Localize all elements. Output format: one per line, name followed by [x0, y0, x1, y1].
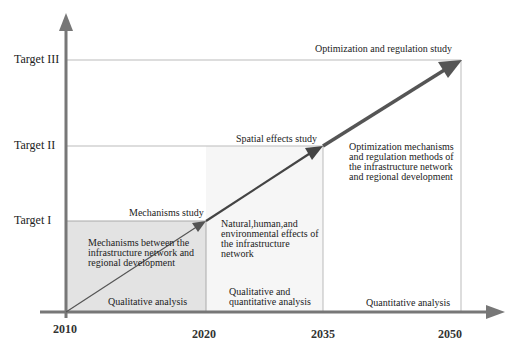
study-label-optimization: Optimization and regulation study [315, 43, 452, 54]
content-line: and regional development [349, 172, 454, 182]
method-line: quantitative analysis [229, 297, 311, 307]
x-label-2050: 2050 [438, 327, 462, 342]
y-label-target1: Target I [14, 213, 51, 228]
content-line: regional development [88, 258, 194, 268]
method-stage1: Qualitative analysis [108, 297, 187, 307]
stage3-arrow [323, 69, 446, 146]
method-stage3: Quantitative analysis [366, 298, 450, 308]
x-label-2020: 2020 [192, 327, 216, 342]
y-label-target2: Target II [14, 138, 55, 153]
study-label-spatial: Spatial effects study [236, 133, 317, 144]
y-axis-arrowhead-icon [59, 13, 73, 31]
y-label-target3: Target III [14, 52, 59, 67]
x-label-2035: 2035 [311, 327, 335, 342]
content-line: network [221, 249, 319, 259]
study-label-mechanisms: Mechanisms study [129, 207, 204, 218]
method-stage2: Qualitative and quantitative analysis [229, 287, 311, 307]
x-axis-arrowhead-icon [486, 305, 505, 319]
stage3-arrowhead-icon [438, 60, 462, 78]
x-label-2010: 2010 [53, 322, 77, 337]
content-stage3: Optimization mechanisms and regulation m… [349, 142, 454, 182]
content-stage2: Natural,human,and environmental effects … [221, 219, 319, 259]
content-stage1: Mechanisms between the infrastructure ne… [88, 238, 194, 268]
